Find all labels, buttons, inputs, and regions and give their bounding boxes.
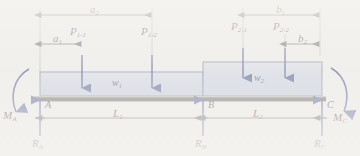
label-P2-2: P2-2 [273,21,289,32]
label-support-B: B [208,100,214,110]
figure-canvas: a2 a1 b1 b2 P1-1 P1-2 P2-1 P2-2 w1 w2 A … [0,0,360,156]
label-support-C: C [327,100,334,110]
label-RA: RA [32,138,43,149]
label-P1-2: P1-2 [141,26,157,37]
label-b2: b2 [298,33,307,44]
label-L1: L1 [113,108,123,119]
label-w1: w1 [112,78,122,88]
label-RC: RC [314,138,325,149]
label-a1: a1 [53,33,62,44]
label-MC: MC [333,112,347,123]
label-P2-1: P2-1 [231,21,247,32]
label-L2: L2 [253,108,263,119]
beam [34,96,326,102]
diagram-svg [0,0,360,156]
moment-arc-MA [13,69,29,112]
label-a2: a2 [90,4,99,15]
label-b1: b1 [276,4,285,15]
label-MA: MA [3,110,16,121]
label-P1-1: P1-1 [70,26,86,37]
label-support-A: A [45,100,51,110]
label-w2: w2 [254,73,264,83]
label-RB: RB [195,138,206,149]
